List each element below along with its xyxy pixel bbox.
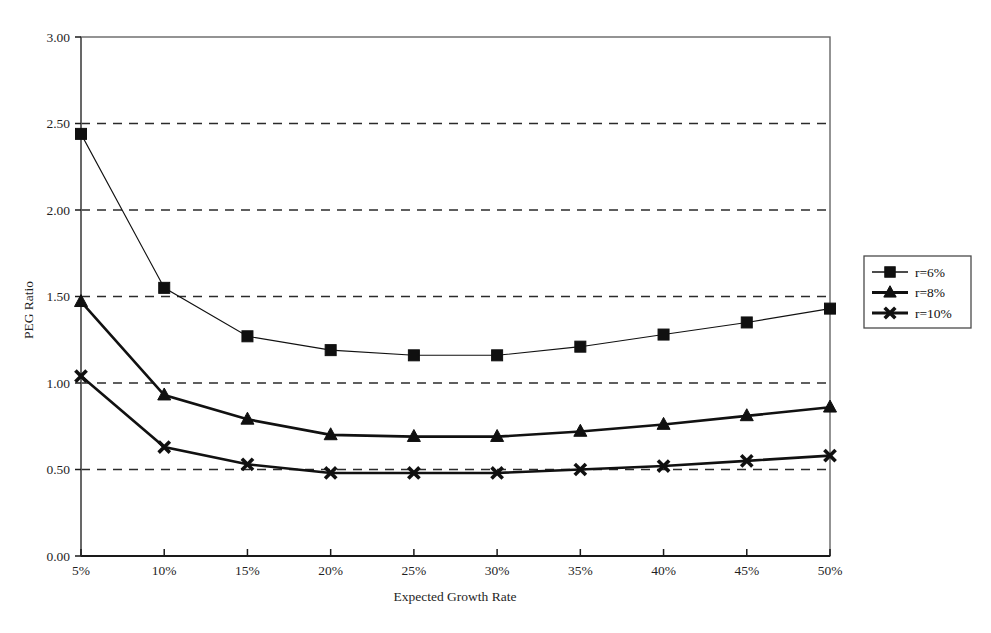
y-tick-label: 2.00 [46, 203, 70, 218]
legend-label: r=10% [915, 306, 952, 321]
x-axis-title: Expected Growth Rate [394, 589, 517, 604]
chart-background [0, 0, 991, 633]
y-tick-label: 2.50 [46, 116, 70, 131]
y-tick-label: 0.50 [46, 462, 70, 477]
peg-ratio-chart: 0.000.501.001.502.002.503.00 5%10%15%20%… [0, 0, 991, 633]
marker-square [575, 341, 586, 352]
marker-square [492, 350, 503, 361]
marker-square [885, 267, 895, 277]
y-tick-label: 1.50 [46, 289, 70, 304]
x-tick-label: 10% [152, 563, 177, 578]
marker-square [658, 329, 669, 340]
y-tick-label: 1.00 [46, 376, 70, 391]
x-tick-label: 15% [235, 563, 260, 578]
x-tick-label: 5% [72, 563, 90, 578]
y-tick-label: 3.00 [46, 30, 70, 45]
marker-square [159, 282, 170, 293]
marker-square [325, 345, 336, 356]
marker-square [242, 331, 253, 342]
chart-canvas: 0.000.501.001.502.002.503.00 5%10%15%20%… [0, 0, 991, 633]
legend-label: r=8% [915, 285, 945, 300]
y-tick-label: 0.00 [46, 549, 70, 564]
y-axis-title: PEG Ratio [21, 281, 36, 339]
marker-square [408, 350, 419, 361]
marker-square [825, 303, 836, 314]
marker-square [741, 317, 752, 328]
legend-label: r=6% [915, 265, 945, 280]
x-tick-label: 45% [734, 563, 759, 578]
x-tick-label: 40% [651, 563, 676, 578]
x-tick-label: 35% [568, 563, 593, 578]
x-tick-label: 30% [485, 563, 510, 578]
marker-square [76, 128, 87, 139]
x-tick-label: 20% [318, 563, 343, 578]
x-tick-label: 25% [402, 563, 427, 578]
x-tick-label: 50% [818, 563, 843, 578]
chart-legend: r=6%r=8%r=10% [864, 256, 971, 328]
